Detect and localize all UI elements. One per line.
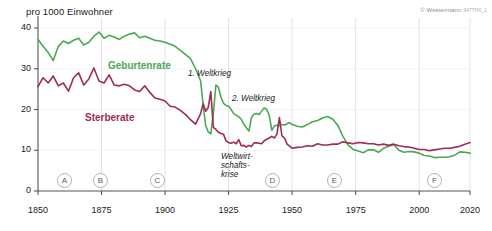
axis-lines: [38, 16, 470, 191]
x-tick-label: 1925: [209, 205, 249, 215]
y-tick-label: 40: [11, 22, 31, 32]
annotation-line: schafts-: [221, 161, 253, 170]
y-tick-label: 30: [11, 63, 31, 73]
reference-marker-c[interactable]: C: [150, 173, 165, 188]
annotation: Weltwirt-schafts-krise: [221, 152, 253, 180]
reference-marker-b[interactable]: B: [93, 173, 108, 188]
annotation-line: 2. Weltkrieg: [232, 94, 275, 103]
plot-area: [0, 0, 492, 231]
chart-container: pro 1000 Einwohner © Westermann947THX_1 …: [0, 0, 492, 231]
annotation-line: 1. Weltkrieg: [188, 69, 231, 78]
annotation: 2. Weltkrieg: [232, 94, 275, 103]
x-tick-label: 1850: [18, 205, 58, 215]
reference-marker-a[interactable]: A: [57, 173, 72, 188]
annotation-line: Weltwirt-: [221, 152, 253, 161]
series-label-sterberate: Sterberate: [85, 112, 134, 123]
series-label-geburtenrate: Geburtenrate: [108, 60, 171, 71]
reference-marker-e[interactable]: E: [327, 173, 342, 188]
x-tick-label: 1875: [82, 205, 122, 215]
reference-marker-d[interactable]: D: [265, 173, 280, 188]
y-tick-label: 20: [11, 104, 31, 114]
y-tick-label: 0: [11, 185, 31, 195]
gridlines: [38, 18, 470, 191]
x-tick-label: 1950: [272, 205, 312, 215]
x-tick-label: 1900: [145, 205, 185, 215]
x-tick-label: 2000: [399, 205, 439, 215]
annotation-line: krise: [221, 170, 253, 179]
y-tick-label: 10: [11, 144, 31, 154]
x-tick-label: 1975: [336, 205, 376, 215]
reference-marker-f[interactable]: F: [427, 173, 442, 188]
x-tick-label: 2020: [450, 205, 490, 215]
annotation: 1. Weltkrieg: [188, 69, 231, 78]
